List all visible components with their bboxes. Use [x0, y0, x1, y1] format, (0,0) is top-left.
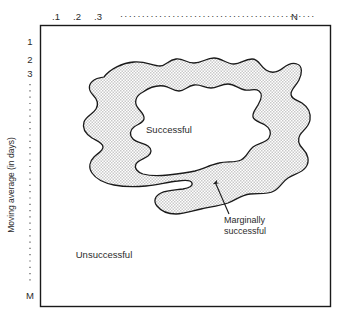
region-label-marginally-successful-line1: Marginally — [224, 215, 266, 225]
x-tick-label-3: .3 — [94, 11, 102, 22]
y-tick-label-3: 3 — [27, 68, 32, 79]
region-label-marginally-successful-line2: successful — [224, 226, 266, 236]
y-tick-label-2: 2 — [27, 54, 32, 65]
region-label-unsuccessful: Unsuccessful — [76, 249, 133, 260]
y-end-label: M — [26, 290, 34, 301]
y-axis-title: Moving average (in days) — [6, 137, 16, 233]
x-end-label: N — [291, 11, 298, 22]
y-tick-label-1: 1 — [27, 36, 32, 47]
x-tick-label-2: .2 — [73, 11, 81, 22]
x-tick-label-1: .1 — [52, 11, 60, 22]
region-label-successful: Successful — [146, 124, 192, 135]
figure-region-diagram: .1 .2 .3 ·······························… — [0, 0, 342, 323]
x-axis-dots: ········································… — [120, 11, 316, 21]
